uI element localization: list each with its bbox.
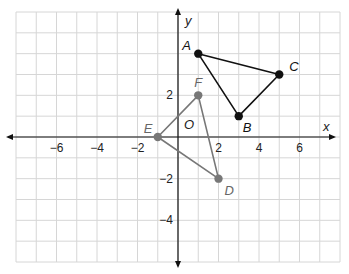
vertex-label-c: C xyxy=(289,59,299,74)
vertex-point-c xyxy=(275,70,283,78)
x-tick-label: −6 xyxy=(50,141,64,155)
y-tick-label: 2 xyxy=(166,88,173,102)
vertex-label-e: E xyxy=(144,121,153,136)
x-tick-label: 2 xyxy=(215,141,222,155)
y-tick-label: −2 xyxy=(159,172,173,186)
x-tick-label: −2 xyxy=(131,141,145,155)
x-axis-right-arrow-icon xyxy=(329,134,336,140)
vertex-label-f: F xyxy=(194,75,203,90)
origin-label: O xyxy=(184,117,194,132)
vertex-point-f xyxy=(194,91,202,99)
vertex-label-b: B xyxy=(243,120,252,135)
vertex-label-a: A xyxy=(181,38,191,53)
y-axis-down-arrow-icon xyxy=(175,261,181,268)
x-axis-left-arrow-icon xyxy=(6,134,13,140)
x-tick-label: −4 xyxy=(90,141,104,155)
plot-svg: yxO−6−4−22462−2−4ABCDEF xyxy=(0,0,349,274)
y-axis-label: y xyxy=(184,13,193,28)
x-tick-label: 6 xyxy=(296,141,303,155)
x-tick-label: 4 xyxy=(256,141,263,155)
x-axis-label: x xyxy=(322,119,330,134)
vertex-point-a xyxy=(194,49,202,57)
vertex-label-d: D xyxy=(225,183,234,198)
vertex-point-e xyxy=(154,133,162,141)
coordinate-plane: yxO−6−4−22462−2−4ABCDEF xyxy=(0,0,349,274)
y-tick-label: −4 xyxy=(159,213,173,227)
vertex-point-b xyxy=(235,112,243,120)
vertex-point-d xyxy=(214,174,222,182)
